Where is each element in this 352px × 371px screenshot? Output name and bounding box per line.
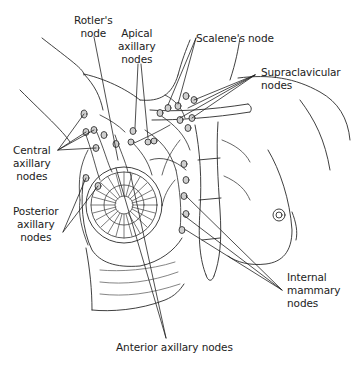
label-apical-axillary-nodes: Apical axillary nodes — [118, 27, 156, 66]
neck-shoulder-outline — [140, 38, 350, 170]
label-central-axillary-nodes: Central axillary nodes — [13, 144, 51, 183]
sternum — [195, 122, 221, 280]
label-posterior-axillary-nodes: Posterior axillary nodes — [13, 205, 59, 244]
anatomical-illustration: Rotler's node Apical axillary nodes Scal… — [0, 0, 352, 371]
label-supraclavicular-nodes: Supraclavicular nodes — [261, 66, 341, 92]
label-rotters-node: Rotler's node — [74, 14, 113, 40]
ribs — [162, 140, 250, 206]
label-internal-mammary-nodes: Internal mammary nodes — [287, 271, 340, 310]
label-anterior-axillary-nodes: Anterior axillary nodes — [116, 341, 233, 354]
label-scalenes-node: Scalene's node — [196, 32, 274, 45]
breast-lymphatic-drawing — [0, 0, 352, 371]
